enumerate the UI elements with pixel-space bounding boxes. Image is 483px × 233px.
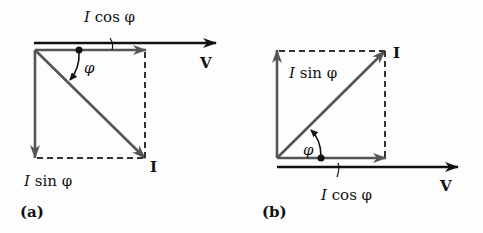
cos-label-a: I cos φ [83,8,135,26]
panel-a: I cos φ φ V I I sin φ (a) [20,8,216,221]
i-label-a: I [150,158,157,176]
caption-a: (a) [20,203,44,221]
panel-b: I sin φ φ I V I cos φ (b) [262,44,458,221]
i-label-b: I [393,44,400,62]
sin-label-b: I sin φ [288,64,337,82]
angle-label-a: φ [84,59,95,77]
phasor-svg: I cos φ φ V I I sin φ (a) I sin φ φ I V … [0,0,483,233]
sin-label-a: I sin φ [23,172,72,190]
angle-arc-a [70,52,79,80]
v-label-b: V [439,177,452,195]
v-label-a: V [199,54,212,72]
caption-b: (b) [262,203,287,221]
cos-label-b: I cos φ [320,186,372,204]
cos-leader-b [337,163,339,177]
phasor-diagram: I cos φ φ V I I sin φ (a) I sin φ φ I V … [0,0,483,233]
angle-label-b: φ [303,141,314,159]
